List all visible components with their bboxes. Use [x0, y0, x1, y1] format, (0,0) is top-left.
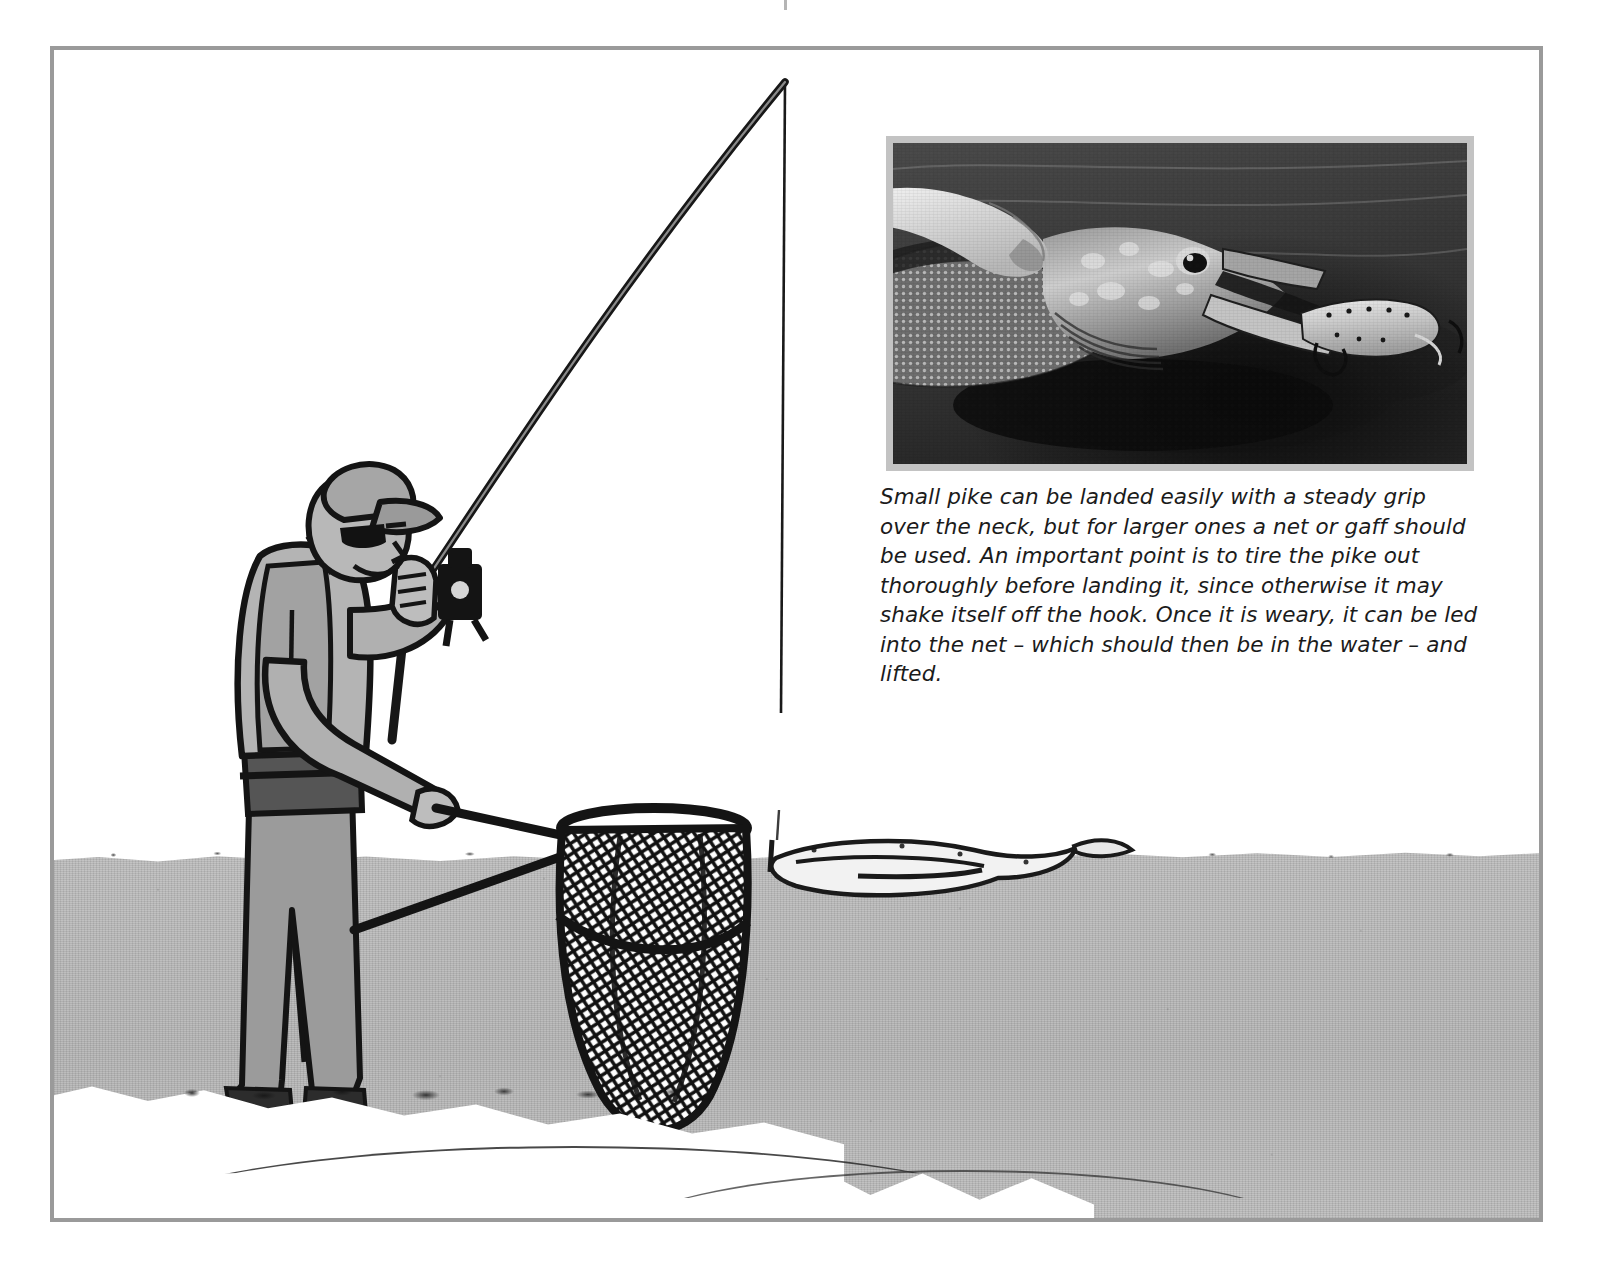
fishing-rod [392, 82, 785, 740]
pike-photo [893, 143, 1467, 464]
registration-tick-mark [784, 0, 787, 10]
illustration-canvas: Small pike can be landed easily with a s… [54, 50, 1539, 1218]
photo-caption: Small pike can be landed easily with a s… [880, 482, 1480, 689]
pike-photo-frame [886, 136, 1474, 471]
pike-photo-artwork [893, 143, 1467, 464]
spinning-reel [438, 548, 486, 646]
shoreline-shadow [144, 1080, 744, 1106]
fishing-line [777, 83, 785, 840]
wave-edge-line-secondary [614, 1170, 1314, 1218]
water-surface-line [54, 848, 1539, 858]
page: Small pike can be landed easily with a s… [0, 0, 1597, 1272]
